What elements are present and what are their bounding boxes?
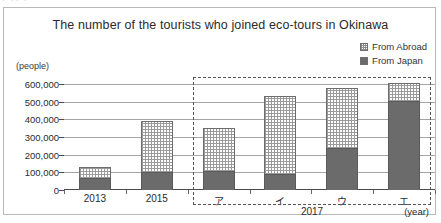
y-axis-tick-label: 600,000 [25,79,59,90]
bar-segment-from-abroad [203,128,235,170]
chart-container: The number of the tourists who joined ec… [3,7,436,215]
y-axis-tick-label: 200,000 [25,149,59,160]
bar-segment-from-abroad [388,83,420,101]
bar-segment-from-japan [264,174,296,190]
x-axis-unit-label: (year) [404,206,429,217]
bar-segment-from-japan [79,178,111,190]
gridline [64,172,435,173]
legend-swatch-japan-icon [360,57,368,65]
bar-ア[interactable] [203,128,235,190]
chart-title: The number of the tourists who joined ec… [4,18,437,32]
y-axis-tick [59,172,64,173]
y-axis-tick-label: 400,000 [25,114,59,125]
x-axis-label-2015: 2015 [134,193,180,204]
y-axis-tick-label: 0 [54,185,59,196]
bar-segment-from-abroad [79,167,111,178]
bar-2013[interactable] [79,167,111,190]
y-axis-unit-label: (people) [16,61,49,71]
x-axis-labels: 20132015アイウエ [64,193,435,207]
bar-segment-from-abroad [326,88,358,148]
y-axis-tick [59,102,64,103]
bar-segment-from-japan [203,171,235,190]
y-axis-tick [59,84,64,85]
x-axis-tick [435,190,436,194]
legend-item-from-japan: From Japan [360,55,427,66]
bar-segment-from-japan [388,101,420,190]
gridline [64,102,435,103]
legend-swatch-abroad-icon [360,43,368,51]
clipped-text-fragment: ▪ ▪▪ ▪ [2,0,28,4]
bar-エ[interactable] [388,83,420,190]
bar-segment-from-japan [141,172,173,190]
gridline [64,155,435,156]
chart-legend: From Abroad From Japan [360,41,427,69]
group-label-2017: 2017 [193,206,431,217]
gridline [64,119,435,120]
y-axis-tick-label: 300,000 [25,132,59,143]
bar-segment-from-japan [326,148,358,190]
y-axis-tick [59,137,64,138]
y-axis-tick [59,155,64,156]
legend-item-from-abroad: From Abroad [360,41,427,52]
bar-segment-from-abroad [141,121,173,172]
legend-label-japan: From Japan [372,55,423,66]
gridline [64,137,435,138]
gridline [64,84,435,85]
bar-segment-from-abroad [264,96,296,175]
bar-ウ[interactable] [326,88,358,190]
bar-2015[interactable] [141,121,173,190]
y-axis-tick [59,119,64,120]
x-axis-label-2013: 2013 [72,193,118,204]
y-axis-tick-label: 100,000 [25,167,59,178]
legend-label-abroad: From Abroad [372,41,427,52]
plot-area: 600,000500,000400,000300,000200,000100,0… [64,84,435,190]
bar-イ[interactable] [264,96,296,191]
y-axis-tick-label: 500,000 [25,96,59,107]
